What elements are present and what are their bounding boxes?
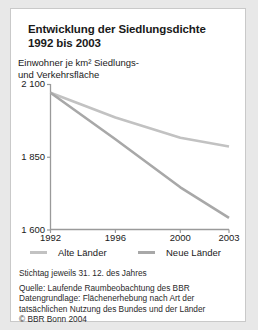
x-tick-label: 2000 (170, 232, 191, 243)
footnote-stichtag: Stichtag jeweils 31. 12. des Jahres (19, 268, 234, 279)
x-tick-label: 1996 (105, 232, 126, 243)
legend-item-neue-laender: Neue Länder (138, 247, 221, 258)
legend-label: Neue Länder (166, 247, 221, 258)
y-tick-label: 2 100 (21, 78, 45, 89)
legend-swatch-icon (30, 251, 47, 254)
x-tick-labels: 1992199620002003 (40, 232, 240, 243)
y-tick-label: 1 850 (21, 151, 45, 162)
legend-swatch-icon (138, 251, 155, 254)
legend: Alte Länder Neue Länder (30, 247, 235, 258)
series-line (51, 93, 230, 218)
legend-item-alte-laender: Alte Länder (30, 247, 138, 258)
footnote-quelle: Quelle: Laufende Raumbeobachtung des BBR (19, 283, 234, 294)
footnote-datengrundlage-2: tatsächlichen Nutzung des Bundes und der… (19, 304, 234, 315)
legend-label: Alte Länder (58, 247, 107, 258)
series-lines (51, 93, 230, 218)
y-tick-labels: 1 6001 8502 100 (21, 78, 45, 235)
chart-page: Entwicklung der Siedlungsdichte 1992 bis… (0, 0, 258, 330)
x-tick-label: 1992 (40, 232, 61, 243)
footnotes: Stichtag jeweils 31. 12. des Jahres Quel… (19, 268, 234, 325)
x-tick-label: 2003 (218, 232, 239, 243)
footnote-copyright: © BBR Bonn 2004 (19, 314, 234, 325)
footnote-datengrundlage-1: Datengrundlage: Flächenerhebung nach Art… (19, 293, 234, 304)
series-line (51, 93, 230, 147)
